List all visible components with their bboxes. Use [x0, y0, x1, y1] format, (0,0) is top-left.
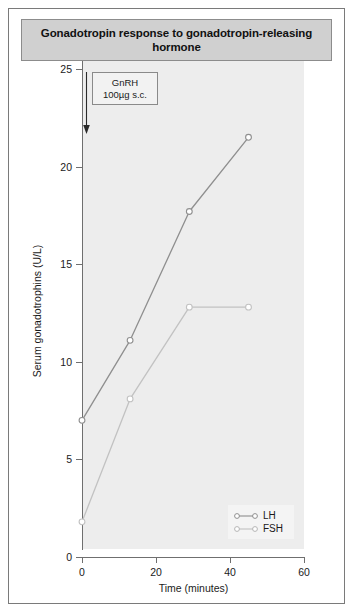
annotation-line-2: 100µg s.c.: [103, 89, 147, 101]
gnrh-annotation-box: GnRH 100µg s.c.: [92, 72, 158, 105]
y-axis-tick-label-5: 5: [66, 453, 72, 465]
x-axis-tick-label-60: 60: [298, 566, 310, 578]
x-axis-tick-40: [230, 557, 231, 563]
x-axis-tick-label-20: 20: [150, 566, 162, 578]
y-axis-tick-5: [76, 459, 82, 460]
x-axis-tick-label-0: 0: [79, 566, 85, 578]
y-axis-tick-label-25: 25: [60, 63, 72, 75]
chart-legend: LH FSH: [228, 505, 294, 539]
y-axis-tick-label-10: 10: [60, 356, 72, 368]
y-axis-tick-20: [76, 167, 82, 168]
y-axis-tick-15: [76, 264, 82, 265]
legend-item-fsh: FSH: [233, 522, 289, 535]
legend-label-fsh: FSH: [263, 523, 283, 534]
x-axis-tick-label-40: 40: [224, 566, 236, 578]
figure-frame: Gonadotropin response to gonadotropin-re…: [8, 8, 345, 604]
x-axis-line: [82, 557, 305, 558]
plot-container: 25 20 15 10 5 0 0 20 40 60 Time (minutes…: [9, 9, 346, 605]
y-axis-title: Serum gonadotrophins (U/L): [31, 211, 43, 411]
plot-area: [82, 61, 304, 549]
legend-label-lh: LH: [263, 510, 276, 521]
x-axis-tick-0: [82, 557, 83, 563]
legend-item-lh: LH: [233, 509, 289, 522]
y-axis-tick-label-20: 20: [60, 161, 72, 173]
legend-marker-fsh: [233, 524, 259, 534]
down-arrow-icon: [82, 72, 91, 135]
y-axis-tick-label-15: 15: [60, 258, 72, 270]
x-axis-tick-60: [304, 557, 305, 563]
x-axis-tick-20: [156, 557, 157, 563]
y-axis-tick-label-0: 0: [66, 551, 72, 563]
legend-marker-lh: [233, 511, 259, 521]
annotation-line-1: GnRH: [112, 77, 138, 89]
x-axis-title: Time (minutes): [82, 582, 305, 594]
y-axis-tick-25: [76, 69, 82, 70]
y-axis-tick-10: [76, 362, 82, 363]
